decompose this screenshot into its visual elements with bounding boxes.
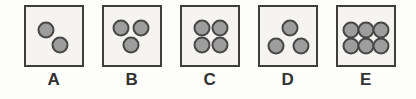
dot-icon	[268, 37, 285, 54]
dot-icon	[372, 22, 389, 39]
option-label: C	[204, 71, 217, 88]
option-c[interactable]: C	[180, 5, 240, 88]
dot-icon	[292, 37, 309, 54]
dot-icon	[194, 20, 211, 37]
option-e[interactable]: E	[336, 5, 396, 88]
answer-options-figure: ABCDE	[0, 0, 416, 99]
dot-icon	[194, 37, 211, 54]
dot-box	[180, 5, 240, 67]
option-b[interactable]: B	[102, 5, 162, 88]
dot-icon	[281, 19, 298, 36]
dot-icon	[211, 20, 228, 37]
dot-box	[258, 5, 318, 67]
dot-icon	[52, 36, 69, 53]
dot-box	[336, 5, 396, 67]
option-label: D	[282, 71, 295, 88]
option-label: B	[126, 71, 139, 88]
option-a[interactable]: A	[24, 5, 84, 88]
dot-box	[102, 5, 162, 67]
dot-icon	[132, 20, 149, 37]
option-label: A	[48, 71, 61, 88]
dot-box	[24, 5, 84, 67]
dot-icon	[122, 37, 139, 54]
option-label: E	[360, 71, 372, 88]
option-d[interactable]: D	[258, 5, 318, 88]
dot-icon	[211, 37, 228, 54]
dot-icon	[112, 20, 129, 37]
dot-icon	[372, 37, 389, 54]
options-row: ABCDE	[24, 5, 396, 88]
dot-icon	[38, 21, 55, 38]
